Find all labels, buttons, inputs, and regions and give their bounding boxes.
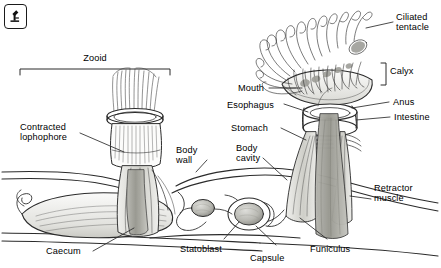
label-statoblast: Statoblast — [180, 244, 222, 254]
funiculus-statoblasts — [177, 192, 286, 231]
label-ciliated-tentacle: Ciliated tentacle — [396, 12, 429, 33]
calyx-bracket — [381, 63, 386, 85]
label-intestine: Intestine — [394, 112, 430, 122]
label-esophagus: Esophagus — [227, 100, 274, 110]
label-mouth: Mouth — [238, 83, 264, 93]
label-calyx: Calyx — [390, 66, 413, 76]
label-funiculus: Funiculus — [310, 244, 350, 254]
bryozoan-zooid-figure: Ciliated tentacle Calyx Mouth Esophagus … — [0, 0, 441, 268]
label-caecum: Caecum — [46, 246, 81, 256]
label-retractor-muscle: Retractor muscle — [374, 183, 413, 204]
label-body-cavity: Body cavity — [236, 143, 260, 164]
label-stomach: Stomach — [231, 123, 268, 133]
label-anus: Anus — [393, 97, 414, 107]
label-zooid: Zooid — [60, 53, 130, 63]
label-contracted-lophophore: Contracted lophophore — [20, 122, 67, 143]
expanded-zooid — [256, 11, 372, 238]
label-body-wall: Body wall — [176, 145, 197, 166]
label-capsule: Capsule — [250, 253, 284, 263]
